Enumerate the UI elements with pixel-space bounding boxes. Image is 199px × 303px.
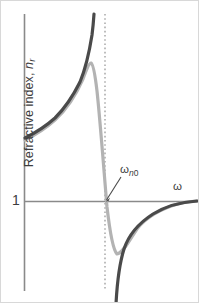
- y-axis-label-text: Refractive index,: [22, 69, 36, 167]
- y-axis-tick-one: 1: [12, 193, 20, 207]
- figure-container: Refractive index, nr 1 ω ωn0: [0, 0, 199, 303]
- y-axis-label: Refractive index, nr: [23, 38, 37, 188]
- resonance-annotation-arrow: [107, 177, 122, 200]
- y-axis-label-subscript: r: [27, 59, 37, 62]
- resonance-subscript-zero: 0: [134, 168, 139, 178]
- resonance-frequency-label: ωn0: [120, 164, 138, 177]
- damped-dispersion-curve: [25, 63, 197, 254]
- undamped-dispersion-curve-upper-branch: [116, 201, 197, 303]
- y-axis-label-symbol: n: [22, 62, 36, 69]
- resonance-omega-glyph: ω: [120, 163, 129, 175]
- x-axis-symbol-label: ω: [173, 181, 182, 193]
